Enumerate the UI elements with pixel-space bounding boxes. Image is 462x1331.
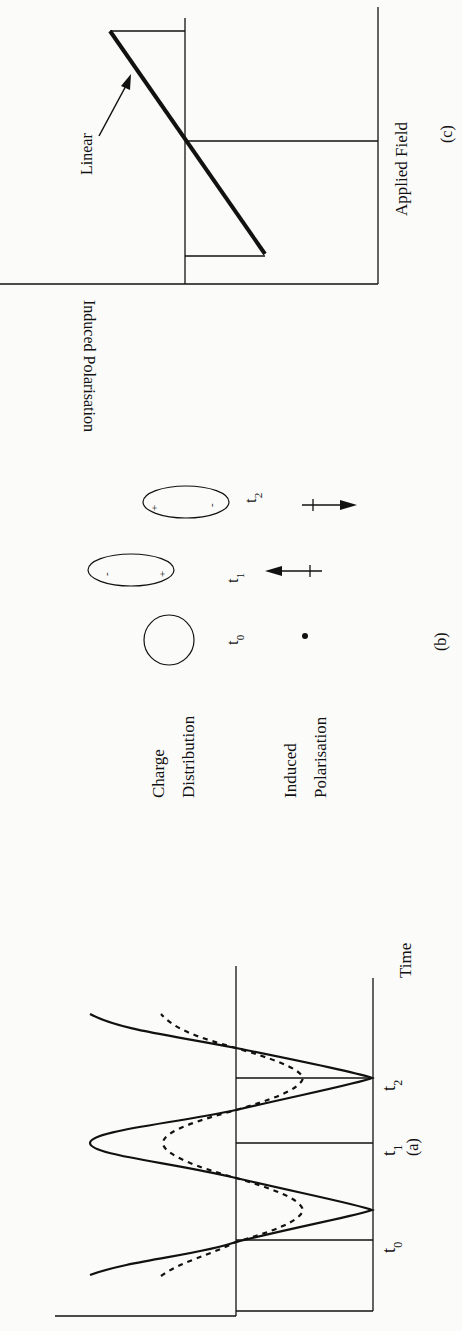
- b-caption: (b): [432, 632, 450, 651]
- a-applied-field-wave: [90, 1014, 372, 1275]
- panel-b: + - t2 - + t1 t0 ChargeDistribution Indu…: [88, 486, 450, 798]
- c-linear-arrow-shaft: [99, 82, 128, 136]
- b-t1-arrow-left-icon: [265, 566, 282, 576]
- a-t2-label: t2: [378, 1080, 405, 1091]
- b-t2-arrow-right-icon: [340, 500, 357, 510]
- b-t1-time-label: t1: [223, 573, 246, 583]
- b-row-label-polarisation: InducedPolarisation: [281, 716, 330, 798]
- a-t0-label: t0: [378, 1242, 405, 1253]
- b-t2-charge-right: -: [205, 503, 217, 507]
- a-induced-polarisation-wave: [161, 1014, 303, 1276]
- b-t0-charge-circle: [144, 615, 194, 665]
- c-linear-response-line: [110, 31, 265, 254]
- b-t1-charge-right: +: [156, 571, 168, 577]
- b-t0-polarisation-dot: [302, 633, 308, 639]
- b-t1-charge-left: -: [100, 572, 112, 576]
- c-y-axis-label: Induced Polarisation: [81, 300, 98, 432]
- c-linear-arrowhead-icon: [121, 74, 131, 90]
- a-caption: (a): [404, 1138, 422, 1156]
- c-caption: (c): [438, 125, 456, 143]
- b-t1-charge-ellipse: [88, 554, 174, 586]
- figure-canvas: Linear Applied Field (c) Induced Polaris…: [0, 0, 462, 1331]
- a-t1-label: t1: [378, 1145, 405, 1156]
- b-t2-charge-left: +: [148, 505, 160, 511]
- a-x-axis-label: Time: [396, 943, 415, 978]
- c-linear-label: Linear: [78, 133, 95, 175]
- b-row-label-charge: ChargeDistribution: [149, 715, 198, 798]
- b-t0-time-label: t0: [223, 634, 246, 645]
- panel-c: Linear Applied Field (c) Induced Polaris…: [0, 7, 456, 432]
- panel-a: t0 t1 t2 (a) Time: [55, 943, 422, 1316]
- b-t2-time-label: t2: [241, 493, 264, 503]
- c-x-axis-label: Applied Field: [392, 122, 411, 216]
- b-t2-charge-ellipse: [143, 486, 229, 518]
